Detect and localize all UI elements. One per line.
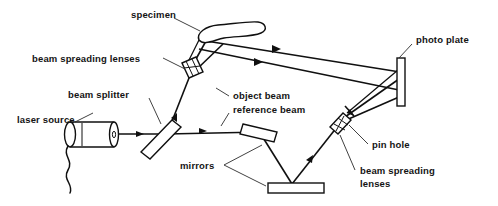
leader-laser-source <box>75 113 93 122</box>
beam-splitter[interactable] <box>141 120 181 159</box>
leader-reference-beam <box>221 113 229 126</box>
photo-plate[interactable] <box>397 58 405 106</box>
label-mirrors: mirrors <box>180 160 214 171</box>
label-laser-source: laser source <box>17 114 75 125</box>
optical-setup-svg: specimen beam spreading lenses beam spli… <box>0 0 498 206</box>
label-beam-spreading-lenses-right-line2: lenses <box>360 178 390 189</box>
label-beam-splitter: beam splitter <box>68 89 129 100</box>
label-reference-beam: reference beam <box>233 104 305 115</box>
mirror-tilted[interactable] <box>240 124 277 142</box>
leader-lenses-right <box>340 135 355 170</box>
label-pin-hole: pin hole <box>372 139 410 150</box>
label-object-beam: object beam <box>233 90 290 101</box>
leader-beam-splitter <box>149 98 161 124</box>
beam-object-to-photo-plate <box>199 41 400 90</box>
label-photo-plate: photo plate <box>416 34 469 45</box>
label-beam-spreading-lenses-right-line1: beam spreading <box>360 165 435 176</box>
mirror-horizontal[interactable] <box>268 183 324 193</box>
beam-spreading-lenses-left[interactable] <box>182 57 203 78</box>
label-beam-spreading-lenses-left: beam spreading lenses <box>32 53 140 64</box>
holography-diagram: specimen beam spreading lenses beam spli… <box>0 0 498 206</box>
specimen[interactable] <box>198 22 265 43</box>
beam-flat-mirror-to-right-lenses <box>292 127 337 184</box>
laser-source[interactable] <box>65 122 119 193</box>
leader-object-beam <box>216 88 229 96</box>
leader-specimen <box>174 18 200 31</box>
leader-photo-plate <box>399 44 412 58</box>
leader-pin-hole <box>349 125 368 144</box>
leader-mirrors <box>224 145 266 186</box>
beam-tilted-to-flat-mirror <box>262 136 292 184</box>
label-specimen: specimen <box>131 9 176 20</box>
